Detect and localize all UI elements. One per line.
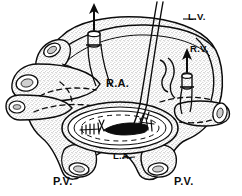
surgical-illustration: L.V. R.V. R.A. L.A. P.V. P.V. [0,0,242,196]
label-right-ventricle: R.V. [190,44,209,54]
label-left-ventricle: L.V. [188,12,206,22]
heart-diagram-svg [0,0,242,196]
label-pulmonary-vein-right: P.V. [174,176,194,187]
label-left-atrium: L.A. [113,151,132,161]
label-right-atrium: R.A. [106,78,129,89]
label-pulmonary-vein-left: P.V. [53,176,73,187]
